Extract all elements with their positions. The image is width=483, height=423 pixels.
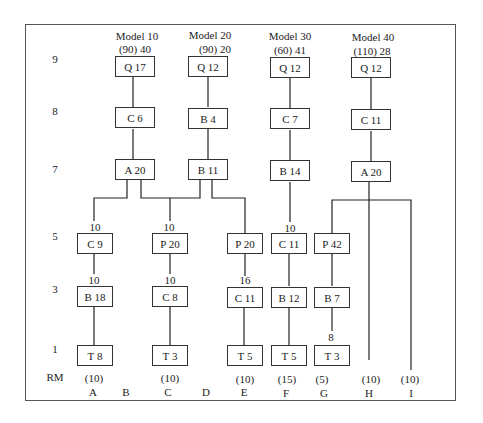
node-b12: B 12 (271, 287, 307, 308)
column-c: C (164, 386, 171, 398)
rm-a: (10) (85, 372, 103, 384)
edge-label-a-l3: 10 (89, 274, 100, 286)
node-c6: C 6 (115, 107, 155, 128)
level-label-7: 7 (52, 163, 58, 175)
level-label-9: 9 (52, 53, 58, 65)
column-b: B (122, 386, 129, 398)
node-t8: T 8 (77, 345, 113, 366)
edge-label-c-l3: 10 (165, 274, 176, 286)
edge-label-e-l3: 16 (240, 274, 251, 286)
column-e: E (241, 386, 248, 398)
node-q12-m20: Q 12 (188, 56, 228, 77)
column-a: A (89, 386, 97, 398)
edge-label-a-l5: 10 (90, 221, 101, 233)
level-label-8: 8 (52, 105, 58, 117)
edge-label-g-l1: 8 (328, 331, 334, 343)
column-f: F (283, 387, 289, 399)
rm-i: (10) (401, 373, 419, 385)
model-20-name: Model 20 (189, 29, 231, 41)
column-i: I (409, 387, 413, 399)
model-30-qty: (60) 41 (274, 44, 306, 56)
node-a20-m40: A 20 (351, 161, 391, 182)
node-c11-f: C 11 (271, 233, 307, 254)
node-b11: B 11 (188, 159, 228, 180)
node-b4: B 4 (188, 108, 228, 129)
rm-e: (10) (236, 373, 254, 385)
column-g: G (320, 387, 328, 399)
column-d: D (202, 386, 210, 398)
node-p42: P 42 (314, 233, 350, 254)
node-q12-m40: Q 12 (351, 57, 391, 78)
node-q17: Q 17 (115, 56, 155, 77)
model-30-name: Model 30 (269, 30, 311, 42)
node-q12-m30: Q 12 (270, 57, 310, 78)
rm-g: (5) (316, 373, 329, 385)
node-b7: B 7 (314, 287, 350, 308)
model-10-name: Model 10 (116, 30, 158, 42)
node-p20-c: P 20 (152, 233, 188, 254)
level-label-1: 1 (52, 343, 58, 355)
node-b14: B 14 (270, 160, 310, 181)
edge-label-c-l5: 10 (164, 221, 175, 233)
node-p20-e: P 20 (227, 233, 263, 254)
node-c7: C 7 (270, 108, 310, 129)
level-label-5: 5 (52, 230, 58, 242)
node-t3-g: T 3 (314, 345, 350, 366)
column-h: H (365, 387, 373, 399)
node-t5-f: T 5 (271, 345, 307, 366)
node-t5-e: T 5 (227, 345, 263, 366)
node-a20-m10: A 20 (115, 159, 155, 180)
node-c9: C 9 (77, 233, 113, 254)
model-10-qty: (90) 40 (119, 43, 151, 55)
level-label-3: 3 (52, 283, 58, 295)
rm-f: (15) (278, 373, 296, 385)
node-c8: C 8 (152, 286, 188, 307)
model-40-name: Model 40 (352, 31, 394, 43)
rm-h: (10) (362, 373, 380, 385)
level-label-rm: RM (46, 371, 63, 383)
model-40-qty: (110) 28 (353, 45, 390, 57)
rm-c: (10) (161, 372, 179, 384)
node-c11-e: C 11 (227, 287, 263, 308)
model-20-qty: (90) 20 (199, 43, 231, 55)
node-b18: B 18 (77, 286, 113, 307)
node-t3-c: T 3 (152, 345, 188, 366)
node-c11-m40: C 11 (351, 109, 391, 130)
